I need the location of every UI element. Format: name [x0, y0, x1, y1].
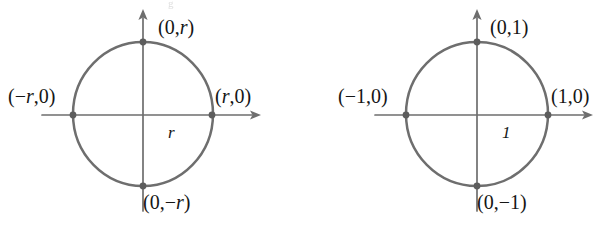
point-label-trail: ,0) [229, 85, 251, 107]
radius-label-left-panel: r [168, 124, 175, 141]
point-label-variable: r [26, 85, 34, 107]
panel-circle-radius-r [42, 9, 261, 211]
panel-unit-circle [375, 9, 593, 211]
point-label-trail: ) [187, 16, 194, 38]
point-label-minus-r-0: (−r,0) [8, 86, 55, 106]
point-label-trail: ,0) [34, 85, 56, 107]
intercept-dot-bottom-right-panel [474, 183, 481, 190]
point-label-trail: ) [184, 191, 191, 213]
point-label-text: (−1,0) [338, 85, 388, 107]
point-label-r-0: (r,0) [215, 86, 251, 106]
point-label-text: (0, [158, 16, 180, 38]
point-label-text: (0,−1) [477, 191, 527, 213]
intercept-dot-bottom-left-panel [140, 183, 147, 190]
radius-label-right-panel: 1 [502, 124, 511, 141]
point-label-0-minus-r: (0,−r) [143, 192, 190, 212]
intercept-dot-right-right-panel [545, 112, 552, 119]
point-label-1-0: (1,0) [551, 86, 589, 106]
point-label-0-1: (0,1) [490, 17, 528, 37]
point-label-minus-1-0: (−1,0) [338, 86, 388, 106]
scan-artifact-glyph: g [168, 0, 174, 9]
point-label-text: (0,1) [490, 16, 528, 38]
point-label-text: (1,0) [551, 85, 589, 107]
point-label-text: ( [215, 85, 222, 107]
point-label-text: (0,− [143, 191, 176, 213]
intercept-dot-left-right-panel [403, 112, 410, 119]
intercept-dot-top-right-panel [474, 39, 481, 46]
point-label-text: (− [8, 85, 26, 107]
point-label-0-minus-1: (0,−1) [477, 192, 527, 212]
intercept-dot-left-left-panel [70, 112, 77, 119]
point-label-variable: r [176, 191, 184, 213]
point-label-0-r: (0,r) [158, 17, 194, 37]
intercept-dot-right-left-panel [209, 112, 216, 119]
intercept-dot-top-left-panel [140, 39, 147, 46]
